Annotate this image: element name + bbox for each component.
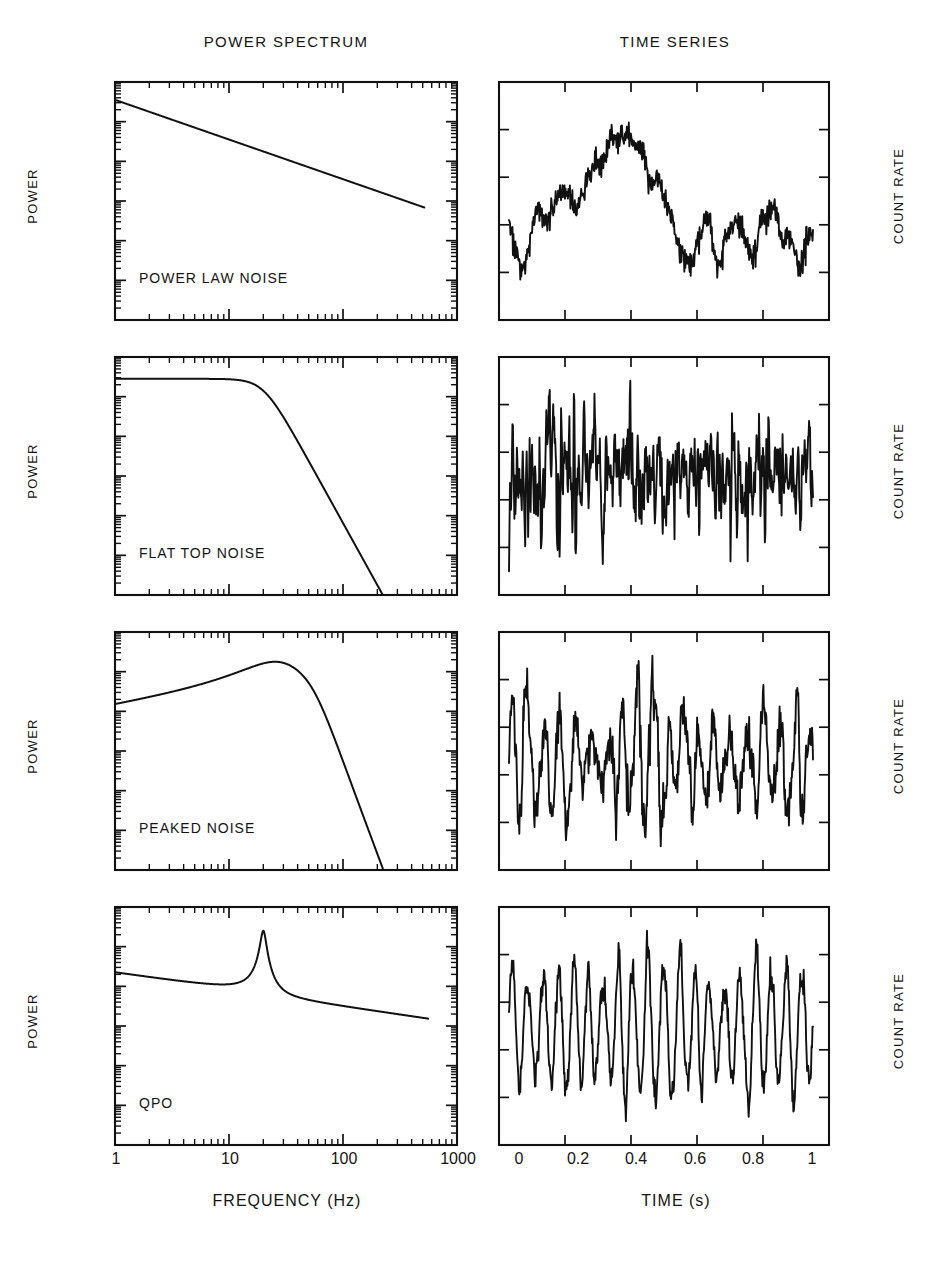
power-spectrum-panel-4 [115, 907, 457, 1145]
power-spectrum-panel-2 [115, 357, 457, 595]
plot-canvas [0, 0, 944, 1270]
time-series-panel-1 [499, 82, 829, 320]
power-panel-frame-2 [115, 357, 457, 595]
time-series-trace-1 [509, 122, 813, 279]
time-series-panel-3 [499, 632, 829, 870]
spectrum-curve-1 [115, 100, 424, 208]
time-series-trace-2 [509, 381, 813, 571]
power-panel-frame-4 [115, 907, 457, 1145]
time-series-panel-4 [499, 907, 829, 1145]
power-spectrum-panel-1 [115, 82, 457, 320]
spectrum-curve-4 [115, 931, 428, 1019]
spectrum-curve-3 [115, 662, 383, 869]
power-panel-frame-3 [115, 632, 457, 870]
time-series-trace-4 [509, 931, 813, 1121]
figure-root: POWER SPECTRUM TIME SERIES POWER POWER P… [0, 0, 944, 1270]
spectrum-curve-2 [115, 379, 382, 594]
power-spectrum-panel-3 [115, 632, 457, 870]
time-series-trace-3 [509, 656, 813, 846]
time-series-panel-2 [499, 357, 829, 595]
